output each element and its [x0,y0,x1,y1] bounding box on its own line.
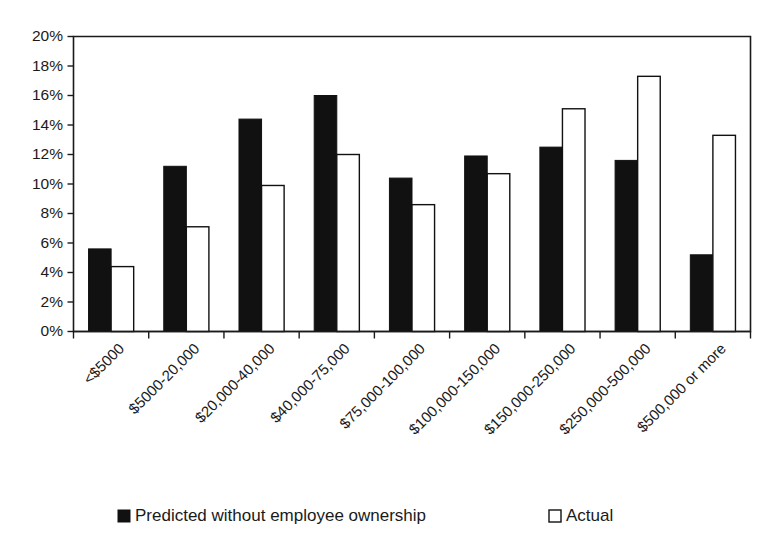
bar-predicted [164,166,187,331]
x-tick-label: $20,000-40,000 [191,340,277,426]
y-tick-label: 10% [32,175,63,192]
bars-layer [89,76,736,331]
legend-swatch-actual-icon [549,510,561,522]
bar-predicted [690,255,713,332]
bar-actual [262,185,285,331]
y-tick-label: 4% [41,263,64,280]
y-axis: 0%2%4%6%8%10%12%14%16%18%20% [32,27,74,339]
bar-actual [638,76,661,331]
y-tick-label: 6% [41,234,64,251]
y-tick-label: 0% [41,322,64,339]
y-tick-label: 20% [32,27,63,44]
bar-predicted [540,147,563,331]
y-tick-label: 18% [32,57,63,74]
bar-chart: 0%2%4%6%8%10%12%14%16%18%20%<$5000$5000-… [0,0,781,560]
chart-legend: Predicted without employee ownershipActu… [118,506,613,525]
bar-predicted [314,96,337,332]
bar-actual [111,267,134,332]
y-tick-label: 14% [32,116,63,133]
legend-label-predicted: Predicted without employee ownership [135,506,426,525]
legend-swatch-predicted-icon [118,510,130,522]
x-tick-labels: <$5000$5000-20,000$20,000-40,000$40,000-… [80,340,729,438]
bar-predicted [389,178,412,331]
bar-actual [412,205,435,332]
x-tick-label: $5000-20,000 [125,340,202,417]
y-tick-label: 16% [32,86,63,103]
x-axis [74,332,751,339]
bar-predicted [465,156,488,332]
bar-predicted [615,160,638,331]
bar-predicted [239,119,262,331]
y-tick-label: 2% [41,293,64,310]
bar-actual [337,155,360,332]
chart-canvas: 0%2%4%6%8%10%12%14%16%18%20%<$5000$5000-… [0,0,781,560]
bar-actual [713,135,736,331]
bar-actual [562,109,585,332]
legend-label-actual: Actual [566,506,613,525]
bar-actual [186,227,209,332]
x-tick-label: <$5000 [80,340,128,388]
x-tick-label: $40,000-75,000 [267,340,353,426]
bar-actual [487,174,510,332]
y-tick-label: 12% [32,145,63,162]
y-tick-label: 8% [41,204,64,221]
bar-predicted [89,249,112,332]
